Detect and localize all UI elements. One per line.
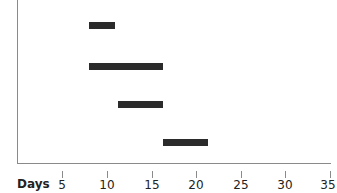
x-tick-label: 25 xyxy=(233,178,248,192)
x-tick-35 xyxy=(330,171,331,178)
x-tick-15 xyxy=(152,171,153,178)
x-tick-label: 10 xyxy=(99,178,114,192)
x-tick-label: 15 xyxy=(144,178,159,192)
x-axis-line xyxy=(17,163,331,164)
task-bar-4 xyxy=(163,139,208,146)
x-tick-10 xyxy=(107,171,108,178)
x-tick-30 xyxy=(285,171,286,178)
x-tick-20 xyxy=(196,171,197,178)
x-tick-5 xyxy=(62,171,63,178)
x-tick-label: 30 xyxy=(277,178,292,192)
task-bar-2 xyxy=(89,63,163,70)
x-axis-title: Days xyxy=(17,177,50,191)
x-tick-label: 5 xyxy=(58,178,66,192)
x-tick-label: 35 xyxy=(320,178,335,192)
x-tick-25 xyxy=(241,171,242,178)
x-tick-label: 20 xyxy=(188,178,203,192)
task-bar-3 xyxy=(118,101,163,108)
y-axis-line xyxy=(17,0,18,164)
task-bar-1 xyxy=(89,22,115,29)
